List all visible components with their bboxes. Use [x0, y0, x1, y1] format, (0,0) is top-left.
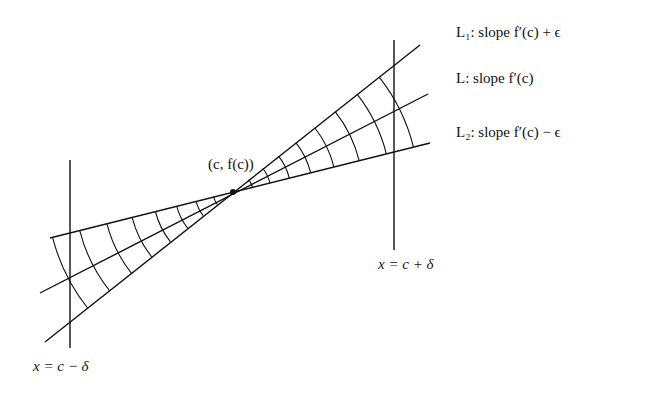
center-point-label: (c, f(c)) — [208, 156, 254, 173]
left-vertical-label: x = c − δ — [33, 358, 89, 375]
legend-L1: L₁: slope f′(c) + ϵ — [456, 24, 561, 41]
right-vertical-label: x = c + δ — [378, 256, 434, 273]
legend-L: L: slope f′(c) — [456, 70, 533, 87]
legend-L2: L₂: slope f′(c) − ϵ — [456, 124, 561, 141]
wedge-diagram — [0, 0, 646, 399]
center-point — [230, 189, 236, 195]
